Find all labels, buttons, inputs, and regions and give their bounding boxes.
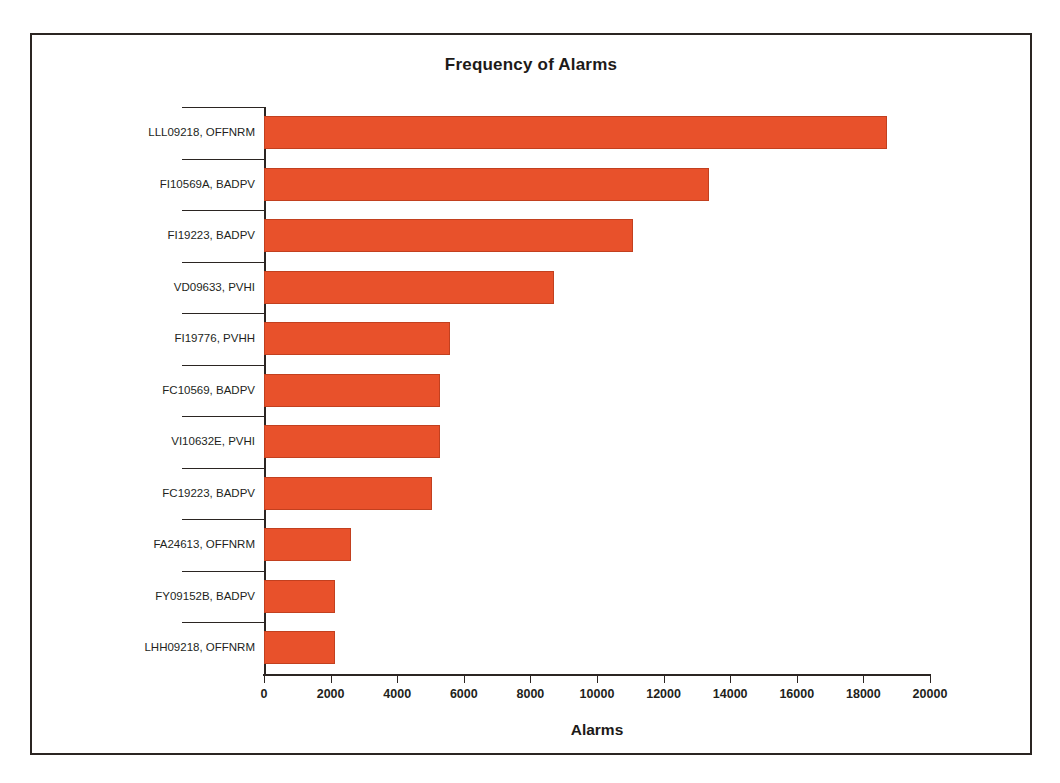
- bar-row: FC19223, BADPV: [264, 468, 930, 520]
- category-tick: [182, 622, 264, 623]
- bar-row: FY09152B, BADPV: [264, 571, 930, 623]
- value-tick: [930, 674, 931, 683]
- value-tick: [464, 674, 465, 683]
- value-tick: [730, 674, 731, 683]
- bar-row: FA24613, OFFNRM: [264, 519, 930, 571]
- bar[interactable]: [264, 477, 432, 510]
- category-tick: [182, 468, 264, 469]
- category-label: FI19223, BADPV: [0, 210, 255, 262]
- chart-frame: Frequency of Alarms LLL09218, OFFNRMFI10…: [30, 33, 1032, 755]
- category-tick: [182, 365, 264, 366]
- bar-row: FI19776, PVHH: [264, 313, 930, 365]
- bar[interactable]: [264, 528, 351, 561]
- bar[interactable]: [264, 168, 709, 201]
- category-tick: [182, 571, 264, 572]
- category-label: LHH09218, OFFNRM: [0, 622, 255, 674]
- bar-row: VD09633, PVHI: [264, 262, 930, 314]
- category-tick: [182, 313, 264, 314]
- category-tick: [182, 262, 264, 263]
- bar[interactable]: [264, 116, 887, 149]
- category-tick: [182, 159, 264, 160]
- bar[interactable]: [264, 219, 633, 252]
- bar[interactable]: [264, 374, 440, 407]
- category-tick: [182, 519, 264, 520]
- bar-row: LHH09218, OFFNRM: [264, 622, 930, 674]
- chart-title: Frequency of Alarms: [32, 55, 1030, 75]
- bar-row: VI10632E, PVHI: [264, 416, 930, 468]
- category-tick: [182, 107, 264, 108]
- bar-row: FI10569A, BADPV: [264, 159, 930, 211]
- category-label: VI10632E, PVHI: [0, 416, 255, 468]
- bar[interactable]: [264, 580, 335, 613]
- plot-area: LLL09218, OFFNRMFI10569A, BADPVFI19223, …: [264, 107, 930, 674]
- bar[interactable]: [264, 425, 440, 458]
- bar[interactable]: [264, 271, 554, 304]
- bar-row: LLL09218, OFFNRM: [264, 107, 930, 159]
- chart-page: Frequency of Alarms LLL09218, OFFNRMFI10…: [0, 0, 1060, 783]
- bar[interactable]: [264, 631, 335, 664]
- category-label: FI19776, PVHH: [0, 313, 255, 365]
- value-tick: [331, 674, 332, 683]
- category-tick: [182, 416, 264, 417]
- value-tick: [597, 674, 598, 683]
- category-label: FC10569, BADPV: [0, 365, 255, 417]
- value-tick-label: 20000: [890, 687, 970, 701]
- category-label: LLL09218, OFFNRM: [0, 107, 255, 159]
- category-label: FA24613, OFFNRM: [0, 519, 255, 571]
- bar[interactable]: [264, 322, 450, 355]
- category-label: FI10569A, BADPV: [0, 159, 255, 211]
- category-label: FC19223, BADPV: [0, 468, 255, 520]
- value-tick: [664, 674, 665, 683]
- value-tick: [797, 674, 798, 683]
- value-tick: [530, 674, 531, 683]
- category-label: VD09633, PVHI: [0, 262, 255, 314]
- bar-row: FI19223, BADPV: [264, 210, 930, 262]
- bar-row: FC10569, BADPV: [264, 365, 930, 417]
- value-tick: [264, 674, 265, 683]
- category-tick: [182, 210, 264, 211]
- value-axis-title: Alarms: [264, 721, 930, 739]
- value-tick: [397, 674, 398, 683]
- category-label: FY09152B, BADPV: [0, 571, 255, 623]
- value-tick: [863, 674, 864, 683]
